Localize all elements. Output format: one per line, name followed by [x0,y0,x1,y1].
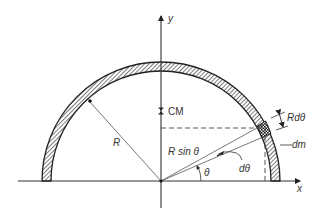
theta-arrow-icon [197,165,201,170]
theta-arc [198,168,201,182]
cm-marker [159,108,164,114]
r-sin-theta-label: R sin θ [168,146,200,157]
x-axis-label: x [296,183,303,194]
rdtheta-ext-upper [271,112,285,118]
origin-dot [159,179,162,182]
dm-label: dm [292,139,306,150]
rdtheta-ext-lower [276,126,288,130]
radius-label: R [113,137,120,148]
y-axis-label: y [167,13,174,24]
dtheta-label: dθ [239,163,251,174]
rdtheta-dimension [280,115,284,128]
radius-line [90,102,161,181]
cm-label: CM [168,106,184,117]
ray-lower [161,134,270,181]
theta-label: θ [204,167,210,178]
radius-endpoint-dot [88,99,92,103]
rdtheta-label: Rdθ [287,112,306,123]
semicircular-ring-diagram: CM y x R R sin θ θ dθ Rdθ dm [0,0,318,211]
